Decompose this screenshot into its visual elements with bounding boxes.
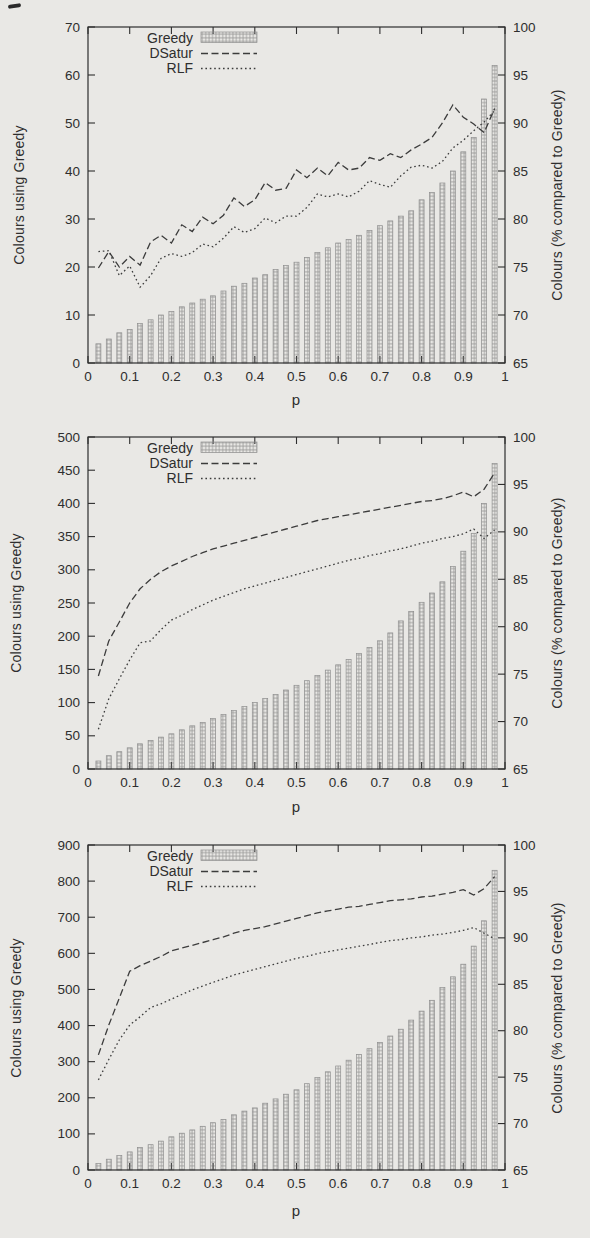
y-tick-label: 100: [57, 1126, 80, 1141]
greedy-bar: [325, 1072, 330, 1170]
greedy-bar: [367, 1049, 372, 1170]
x-tick-label: 0.7: [371, 369, 390, 384]
legend-label: DSatur: [149, 45, 193, 61]
greedy-bar: [148, 1145, 153, 1170]
greedy-bar: [190, 1130, 195, 1170]
x-tick-label: 0.7: [371, 775, 390, 790]
greedy-bar: [127, 329, 132, 363]
greedy-bar: [106, 756, 111, 769]
y2-tick-label: 85: [513, 164, 528, 179]
y-tick-label: 0: [72, 762, 80, 777]
greedy-bar: [471, 946, 476, 1170]
y-tick-label: 900: [57, 838, 80, 853]
x-tick-label: 0.5: [287, 1176, 306, 1191]
legend-label: Greedy: [147, 30, 193, 46]
x-tick-label: 0: [84, 369, 92, 384]
greedy-bars: [96, 870, 497, 1170]
y2-tick-label: 80: [513, 1023, 528, 1038]
greedy-bar: [221, 1119, 226, 1170]
greedy-bars: [96, 65, 497, 363]
greedy-bar: [367, 231, 372, 364]
greedy-bar: [96, 761, 101, 769]
chart-1-plot: 00.10.20.30.40.50.60.70.80.9101020304050…: [0, 0, 590, 412]
y-tick-label: 300: [57, 1054, 80, 1069]
legend-label: Greedy: [147, 848, 193, 864]
dsatur-line: [98, 877, 494, 1055]
greedy-bar: [231, 286, 236, 363]
greedy-bar: [492, 870, 497, 1170]
y2-tick-label: 70: [513, 714, 528, 729]
greedy-bar: [252, 278, 257, 363]
greedy-bar: [461, 964, 466, 1170]
greedy-bars: [96, 464, 497, 769]
y-tick-label: 500: [57, 982, 80, 997]
greedy-bar: [148, 740, 153, 769]
greedy-bar: [200, 1126, 205, 1170]
greedy-bar: [231, 1115, 236, 1170]
y-tick-label: 40: [65, 164, 80, 179]
x-tick-label: 0.9: [454, 775, 473, 790]
greedy-bar: [221, 291, 226, 363]
greedy-bar: [471, 533, 476, 769]
greedy-bar: [357, 1054, 362, 1170]
x-tick-label: 0.6: [329, 1176, 348, 1191]
x-tick-label: 0.9: [454, 369, 473, 384]
greedy-bar: [294, 1090, 299, 1170]
greedy-bar: [200, 299, 205, 363]
x-tick-label: 1: [501, 369, 509, 384]
greedy-bar: [325, 670, 330, 769]
x-tick-label: 1: [501, 775, 509, 790]
greedy-bar: [315, 253, 320, 363]
greedy-bar: [409, 211, 414, 363]
greedy-bar: [440, 582, 445, 769]
y2-tick-label: 65: [513, 356, 528, 371]
greedy-bar: [242, 283, 247, 363]
y2-tick-label: 65: [513, 1163, 528, 1178]
greedy-bar: [461, 551, 466, 769]
y-tick-label: 60: [65, 68, 80, 83]
greedy-bar: [357, 235, 362, 363]
greedy-bar: [409, 1020, 414, 1170]
x-tick-label: 0.5: [287, 775, 306, 790]
x-tick-label: 0.1: [120, 775, 139, 790]
greedy-bar: [179, 730, 184, 769]
y2-tick-label: 85: [513, 572, 528, 587]
dsatur-line: [98, 105, 494, 268]
chart-2-y2-axis-label: Colours (% compared to Greedy): [549, 497, 565, 708]
x-tick-label: 0.5: [287, 369, 306, 384]
greedy-bar: [398, 1029, 403, 1170]
y-tick-label: 800: [57, 874, 80, 889]
x-tick-label: 0.4: [245, 775, 264, 790]
y-tick-label: 70: [65, 20, 80, 35]
greedy-bar: [96, 344, 101, 363]
greedy-bar: [409, 612, 414, 769]
y-tick-label: 400: [57, 1018, 80, 1033]
greedy-bar: [346, 240, 351, 363]
greedy-bar: [159, 1141, 164, 1170]
greedy-bar: [336, 243, 341, 363]
greedy-bar: [440, 183, 445, 363]
greedy-bar: [106, 1159, 111, 1170]
legend-label: RLF: [167, 878, 193, 894]
y-tick-label: 50: [65, 728, 80, 743]
greedy-bar: [377, 641, 382, 769]
greedy-bar: [471, 137, 476, 363]
greedy-bar: [159, 737, 164, 769]
greedy-bar: [450, 567, 455, 770]
greedy-bar: [117, 333, 122, 363]
chart-3-x-axis-label: p: [292, 1202, 300, 1219]
y-tick-label: 0: [72, 356, 80, 371]
x-tick-label: 0.1: [120, 1176, 139, 1191]
legend-label: DSatur: [149, 455, 193, 471]
greedy-bar: [430, 193, 435, 363]
chart-2-x-axis-label: p: [292, 798, 300, 815]
legend-label: DSatur: [149, 863, 193, 879]
greedy-bar: [263, 275, 268, 363]
y2-tick-label: 100: [513, 430, 536, 445]
greedy-bar: [159, 315, 164, 363]
y-tick-label: 600: [57, 946, 80, 961]
legend-label: RLF: [167, 60, 193, 76]
rlf-line: [98, 111, 494, 288]
greedy-bar: [190, 303, 195, 363]
greedy-bar: [263, 1103, 268, 1170]
